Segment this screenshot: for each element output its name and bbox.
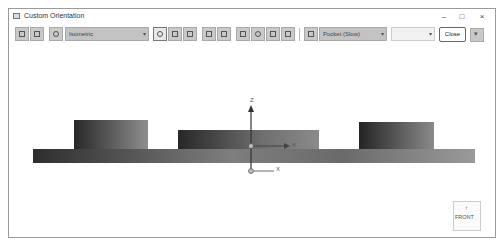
x-axis-label: X (292, 142, 296, 148)
fit-button[interactable] (183, 27, 197, 41)
expand-button[interactable]: ▾ (470, 28, 484, 42)
view-list-button[interactable] (15, 27, 29, 41)
pan-icon (172, 31, 178, 37)
app-icon (13, 13, 20, 19)
zoom-extents-button[interactable] (266, 27, 280, 41)
window-title: Custom Orientation (24, 12, 84, 19)
render-mode-value: Pocket (Slow) (323, 31, 360, 37)
fit-icon (187, 31, 193, 37)
axis-triad[interactable] (234, 95, 304, 175)
align-x-icon (206, 31, 212, 37)
view-orientation-combo[interactable]: Isometric ▾ (65, 27, 149, 41)
magnifier-icon (255, 31, 261, 37)
chevron-down-icon: ▾ (381, 28, 384, 40)
close-button[interactable]: Close (439, 27, 466, 42)
render-mode-button[interactable] (304, 27, 318, 41)
align-z-icon (221, 31, 227, 37)
x-axis-lower-label: X (276, 166, 280, 172)
render-mode-combo[interactable]: Pocket (Slow) ▾ (319, 27, 387, 41)
zoom-button[interactable] (251, 27, 265, 41)
right-block (359, 122, 434, 149)
left-block (74, 120, 148, 149)
align-z-button[interactable] (217, 27, 231, 41)
snapshot-button[interactable] (281, 27, 295, 41)
zoom-extents-icon (270, 31, 276, 37)
paint-icon (308, 31, 314, 37)
minimize-button[interactable]: – (437, 11, 451, 22)
gear-icon (53, 31, 59, 37)
maximize-button[interactable]: □ (455, 11, 469, 22)
toolbar: Isometric ▾ Pocket (Slow) ▾ ▾ Close ▾ (9, 24, 495, 44)
rotate-button[interactable] (153, 27, 167, 41)
view-cube-label: FRONT (455, 214, 474, 220)
title-bar: Custom Orientation – □ × (9, 9, 495, 24)
view-cube-button[interactable] (30, 27, 44, 41)
view-cube[interactable]: ↑ FRONT (453, 201, 481, 231)
z-axis-label: Z (250, 97, 254, 103)
custom-orientation-window: Custom Orientation – □ × Isometric ▾ Poc… (8, 8, 496, 238)
zoom-window-icon (240, 31, 246, 37)
list-icon (19, 31, 25, 37)
zoom-window-button[interactable] (236, 27, 250, 41)
align-x-button[interactable] (202, 27, 216, 41)
view-orientation-value: Isometric (69, 31, 93, 37)
toolbar-divider (299, 28, 300, 41)
chevron-down-icon: ▾ (474, 30, 478, 38)
settings-button[interactable] (49, 27, 63, 41)
arrow-up-icon: ↑ (465, 205, 468, 211)
rotate-icon (157, 31, 163, 37)
3d-viewport[interactable]: Z X X ↑ FRONT (9, 45, 495, 238)
cube-icon (34, 31, 40, 37)
close-window-button[interactable]: × (475, 11, 489, 22)
chevron-down-icon: ▾ (429, 28, 432, 40)
chevron-down-icon: ▾ (143, 28, 146, 40)
pan-button[interactable] (168, 27, 182, 41)
disabled-combo: ▾ (391, 27, 435, 41)
snapshot-icon (285, 31, 291, 37)
